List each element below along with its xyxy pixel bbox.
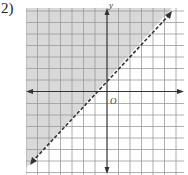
y-axis-down-arrow-icon [105,167,110,174]
origin-label: O [110,96,117,106]
inequality-graph: y O [0,0,188,175]
x-axis-right-arrow-icon [177,89,184,94]
y-axis-label: y [108,0,113,10]
